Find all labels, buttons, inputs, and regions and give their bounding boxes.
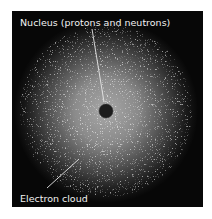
- nucleus-label: Nucleus (protons and neutrons): [20, 17, 170, 28]
- nucleus: [99, 104, 113, 118]
- atom-diagram: Nucleus (protons and neutrons) Electron …: [12, 11, 203, 207]
- electron-cloud-label: Electron cloud: [20, 193, 88, 204]
- electron-cloud-graphic: [12, 11, 203, 207]
